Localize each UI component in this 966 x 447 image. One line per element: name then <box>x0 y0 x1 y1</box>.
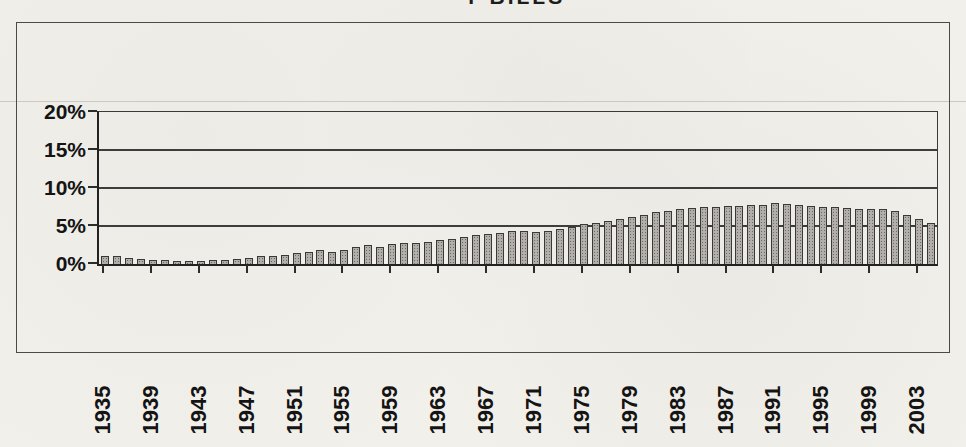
x-tick-mark-1971 <box>533 265 535 273</box>
bar-1975 <box>580 224 588 264</box>
bar-1963 <box>436 240 444 264</box>
bar-1962 <box>424 242 432 264</box>
bar-1935 <box>101 256 109 264</box>
bar-1980 <box>640 215 648 264</box>
x-tick-mark-1951 <box>294 265 296 273</box>
bar-1959 <box>388 244 396 264</box>
bar-1965 <box>460 237 468 264</box>
bar-1936 <box>113 256 121 264</box>
y-tick-label-15: 15% <box>24 139 86 160</box>
bar-1983 <box>676 209 684 264</box>
bar-1964 <box>448 239 456 264</box>
x-tick-mark-1935 <box>102 265 104 273</box>
y-tick-mark-0 <box>88 262 97 264</box>
x-tick-mark-1963 <box>437 265 439 273</box>
bar-1938 <box>137 259 145 264</box>
bar-1971 <box>532 232 540 264</box>
scanned-chart-page: T-BILLS 20%15%10%5%0% 193519391943194719… <box>0 0 966 447</box>
bar-1976 <box>592 223 600 264</box>
bar-1989 <box>747 205 755 264</box>
bar-1978 <box>616 219 624 264</box>
gridline-10pct <box>99 187 937 189</box>
bar-1990 <box>759 205 767 264</box>
x-tick-label-1963: 1963 <box>427 386 449 435</box>
x-tick-label-2003: 2003 <box>906 386 928 435</box>
bar-1992 <box>783 204 791 264</box>
bar-1986 <box>712 207 720 264</box>
plot-area <box>97 111 938 266</box>
bar-1981 <box>652 212 660 264</box>
bar-1943 <box>197 261 205 264</box>
y-tick-label-0: 0% <box>24 253 86 274</box>
bar-1982 <box>664 211 672 264</box>
bar-1958 <box>376 247 384 264</box>
bar-1993 <box>795 205 803 264</box>
bar-1970 <box>520 231 528 264</box>
bar-1939 <box>149 260 157 264</box>
bar-1953 <box>316 250 324 264</box>
x-tick-mark-1995 <box>820 265 822 273</box>
bar-1988 <box>735 206 743 264</box>
y-tick-mark-15 <box>88 148 97 150</box>
bar-1952 <box>305 252 313 264</box>
bar-2004 <box>927 223 935 264</box>
bar-1974 <box>568 227 576 264</box>
x-tick-label-1939: 1939 <box>140 386 162 435</box>
x-tick-label-1999: 1999 <box>858 386 880 435</box>
bar-2001 <box>891 211 899 264</box>
bar-1977 <box>604 221 612 264</box>
bar-1996 <box>831 207 839 264</box>
x-tick-label-1983: 1983 <box>667 386 689 435</box>
bar-2000 <box>879 209 887 264</box>
x-tick-mark-1939 <box>150 265 152 273</box>
bar-1945 <box>221 260 229 264</box>
x-tick-mark-1983 <box>677 265 679 273</box>
bar-1947 <box>245 258 253 264</box>
bar-1972 <box>544 231 552 264</box>
x-tick-label-1971: 1971 <box>523 386 545 435</box>
bar-1946 <box>233 259 241 264</box>
bar-1994 <box>807 206 815 264</box>
bar-1957 <box>364 245 372 264</box>
y-tick-mark-5 <box>88 224 97 226</box>
x-tick-label-1955: 1955 <box>331 386 353 435</box>
y-tick-label-10: 10% <box>24 177 86 198</box>
bar-1995 <box>819 207 827 264</box>
bar-1948 <box>257 256 265 264</box>
bar-1998 <box>855 209 863 264</box>
x-tick-label-1935: 1935 <box>92 386 114 435</box>
bar-1973 <box>556 229 564 264</box>
x-tick-label-1959: 1959 <box>379 386 401 435</box>
bar-1987 <box>724 206 732 264</box>
y-tick-label-20: 20% <box>24 101 86 122</box>
bar-1979 <box>628 217 636 264</box>
bar-1984 <box>688 208 696 264</box>
x-tick-label-1975: 1975 <box>571 386 593 435</box>
x-tick-mark-1991 <box>772 265 774 273</box>
x-tick-mark-1987 <box>725 265 727 273</box>
bar-1941 <box>173 261 181 264</box>
x-tick-mark-1979 <box>629 265 631 273</box>
bar-1954 <box>328 252 336 264</box>
x-tick-mark-1947 <box>246 265 248 273</box>
x-tick-label-1995: 1995 <box>810 386 832 435</box>
bar-1951 <box>293 253 301 264</box>
y-tick-mark-10 <box>88 186 97 188</box>
x-tick-mark-2003 <box>916 265 918 273</box>
bar-1937 <box>125 258 133 264</box>
gridline-15pct <box>99 149 937 151</box>
x-tick-mark-1959 <box>389 265 391 273</box>
chart-title-text: T-BILLS <box>360 0 670 9</box>
bar-2002 <box>903 215 911 264</box>
x-tick-mark-1955 <box>341 265 343 273</box>
bar-1960 <box>400 243 408 264</box>
x-tick-label-1951: 1951 <box>284 386 306 435</box>
x-tick-mark-1967 <box>485 265 487 273</box>
bar-1940 <box>161 260 169 264</box>
bar-1967 <box>484 234 492 264</box>
bar-1966 <box>472 235 480 264</box>
bar-1969 <box>508 231 516 264</box>
bar-1944 <box>209 260 217 264</box>
bar-1991 <box>771 203 779 264</box>
bar-1950 <box>281 255 289 264</box>
